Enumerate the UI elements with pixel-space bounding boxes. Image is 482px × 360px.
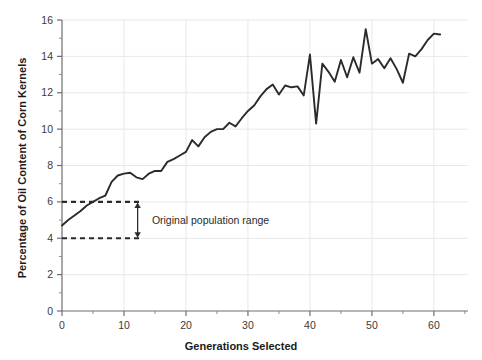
y-tick-label: 10	[41, 123, 53, 135]
y-tick-label: 16	[41, 14, 53, 26]
original-population-range-label: Original population range	[152, 214, 269, 226]
y-tick-label: 12	[41, 86, 53, 98]
x-axis-title: Generations Selected	[185, 340, 298, 352]
y-tick-label: 4	[47, 232, 53, 244]
x-tick-label: 20	[180, 319, 192, 331]
chart-container: 02468101214160102030405060 Original popu…	[0, 0, 482, 360]
y-tick-label: 6	[47, 195, 53, 207]
x-tick-label: 30	[242, 319, 254, 331]
x-tick-label: 10	[118, 319, 130, 331]
y-tick-label: 8	[47, 159, 53, 171]
x-tick-label: 50	[366, 319, 378, 331]
y-axis-title: Percentage of Oil Content of Corn Kernel…	[16, 58, 28, 279]
y-tick-label: 0	[47, 305, 53, 317]
x-tick-label: 40	[304, 319, 316, 331]
y-tick-label: 14	[41, 50, 53, 62]
y-tick-label: 2	[47, 268, 53, 280]
x-tick-label: 60	[428, 319, 440, 331]
x-tick-label: 0	[59, 319, 65, 331]
oil-content-line-chart: 02468101214160102030405060 Original popu…	[0, 0, 482, 360]
